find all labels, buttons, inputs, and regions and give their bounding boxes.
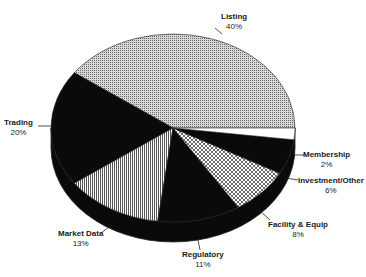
slice-label-name: Investment/Other bbox=[298, 176, 364, 186]
slice-label-name: Regulatory bbox=[182, 250, 224, 260]
slice-label-market-data: Market Data13% bbox=[58, 229, 103, 249]
slice-label-percent: 6% bbox=[298, 186, 364, 196]
slice-label-percent: 8% bbox=[268, 230, 328, 240]
slice-label-percent: 13% bbox=[58, 239, 103, 249]
slice-label-name: Market Data bbox=[58, 229, 103, 239]
slice-label-percent: 2% bbox=[303, 160, 350, 170]
slice-label-listing: Listing40% bbox=[221, 12, 247, 32]
slice-label-trading: Trading20% bbox=[4, 118, 33, 138]
slice-label-regulatory: Regulatory11% bbox=[182, 250, 224, 270]
slice-label-percent: 40% bbox=[221, 22, 247, 32]
pie-top bbox=[51, 34, 295, 222]
slice-label-name: Trading bbox=[4, 118, 33, 128]
slice-label-percent: 11% bbox=[182, 260, 224, 270]
slice-label-name: Listing bbox=[221, 12, 247, 22]
slice-label-name: Facility & Equip bbox=[268, 220, 328, 230]
slice-label-percent: 20% bbox=[4, 128, 33, 138]
slice-label-name: Membership bbox=[303, 150, 350, 160]
slice-label-facility-equip: Facility & Equip8% bbox=[268, 220, 328, 240]
slice-label-investment-other: Investment/Other6% bbox=[298, 176, 364, 196]
slice-label-membership: Membership2% bbox=[303, 150, 350, 170]
